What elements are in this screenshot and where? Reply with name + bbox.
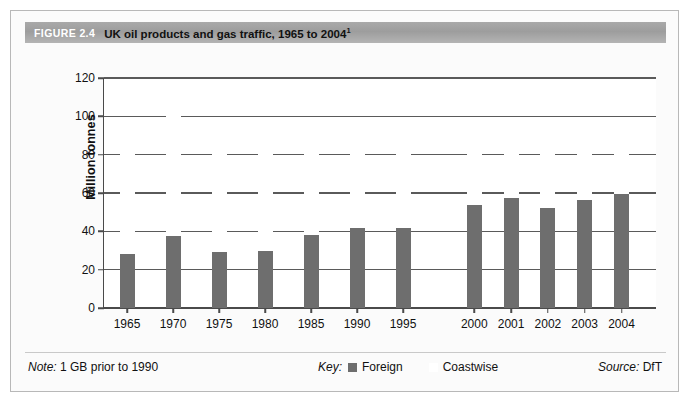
bar-group-1985[interactable]: 1985 [304,78,319,308]
x-tick-mark-1995 [402,308,404,313]
note-body: 1 GB prior to 1990 [60,360,158,374]
bar-segment-foreign-2004[interactable] [614,194,629,308]
bar-segment-foreign-1995[interactable] [396,228,411,308]
bar-segment-coastwise-1980[interactable] [258,136,273,251]
bar-segment-foreign-1990[interactable] [350,228,365,308]
x-tick-label-1995: 1995 [390,317,417,331]
legend-swatch-foreign-icon [348,363,357,372]
bar-segment-foreign-2003[interactable] [577,200,592,308]
bar-segment-coastwise-1965[interactable] [120,139,135,254]
bar-segment-coastwise-1995[interactable] [396,141,411,228]
x-tick-mark-1990 [356,308,358,313]
bar-group-2001[interactable]: 2001 [504,78,519,308]
x-tick-label-1965: 1965 [114,317,141,331]
bar-group-1990[interactable]: 1990 [350,78,365,308]
bar-group-1970[interactable]: 1970 [166,78,181,308]
legend-item-foreign: Foreign [348,360,403,374]
legend-text-foreign: Foreign [362,360,403,374]
bar-segment-foreign-1980[interactable] [258,251,273,309]
x-tick-label-2001: 2001 [498,317,525,331]
x-tick-mark-1965 [126,308,128,313]
chart-legend: Key: Foreign Coastwise [318,360,498,374]
x-tick-label-1975: 1975 [206,317,233,331]
bar-segment-coastwise-2003[interactable] [577,136,592,200]
x-tick-mark-2003 [584,308,586,313]
figure-root: FIGURE 2.4 UK oil products and gas traff… [0,0,691,404]
y-tick-label-20: 20 [82,263,95,277]
bar-segment-foreign-1985[interactable] [304,235,319,308]
x-tick-label-1970: 1970 [160,317,187,331]
x-tick-label-2000: 2000 [461,317,488,331]
bar-segment-foreign-2000[interactable] [467,205,482,309]
x-tick-mark-2000 [474,308,476,313]
y-tick-label-40: 40 [82,224,95,238]
bar-segment-coastwise-2002[interactable] [540,142,555,208]
bar-group-1980[interactable]: 1980 [258,78,273,308]
note-prefix: Note: [28,360,57,374]
bar-segment-coastwise-1985[interactable] [304,136,319,236]
figure-title-footnote-marker: 1 [346,26,350,35]
x-tick-label-2004: 2004 [608,317,635,331]
bar-segment-foreign-1975[interactable] [212,252,227,308]
y-tick-label-120: 120 [75,71,95,85]
bar-group-2003[interactable]: 2003 [577,78,592,308]
x-tick-mark-2001 [510,308,512,313]
source-body: DfT [643,360,662,374]
bar-segment-coastwise-2000[interactable] [467,128,482,205]
plot-area: Million tonnes 020406080100120 196519701… [25,55,666,355]
figure-number-label: FIGURE 2.4 [25,27,95,39]
bar-segment-foreign-2002[interactable] [540,208,555,308]
x-tick-mark-1980 [264,308,266,313]
legend-item-coastwise: Coastwise [429,360,498,374]
bar-group-2004[interactable]: 2004 [614,78,629,308]
x-tick-label-1990: 1990 [344,317,371,331]
figure-footer: Note: 1 GB prior to 1990 Key: Foreign Co… [25,360,666,380]
bar-segment-coastwise-1990[interactable] [350,141,365,228]
x-tick-label-1980: 1980 [252,317,279,331]
bar-segment-foreign-1970[interactable] [166,236,181,308]
bar-segment-coastwise-2001[interactable] [504,136,519,197]
legend-label: Key: [318,360,342,374]
x-tick-mark-2004 [621,308,623,313]
bar-group-1995[interactable]: 1995 [396,78,411,308]
bar-group-1975[interactable]: 1975 [212,78,227,308]
source-text: Source: DfT [598,360,662,374]
figure-header-band: FIGURE 2.4 UK oil products and gas traff… [25,22,666,43]
x-tick-label-2003: 2003 [571,317,598,331]
x-tick-label-1985: 1985 [298,317,325,331]
y-tick-label-0: 0 [88,301,95,315]
bar-segment-foreign-2001[interactable] [504,198,519,308]
bar-segment-foreign-1965[interactable] [120,254,135,308]
bar-group-2000[interactable]: 2000 [467,78,482,308]
chart-canvas: 020406080100120 196519701975198019851990… [103,78,656,308]
x-tick-label-2002: 2002 [535,317,562,331]
x-tick-mark-1985 [310,308,312,313]
note-text: Note: 1 GB prior to 1990 [28,360,158,374]
legend-swatch-coastwise-icon [429,363,438,372]
figure-title: UK oil products and gas traffic, 1965 to… [95,26,350,40]
y-tick-label-60: 60 [82,186,95,200]
legend-text-coastwise: Coastwise [443,360,498,374]
y-tick-label-80: 80 [82,148,95,162]
bars-layer: 1965197019751980198519901995200020012002… [104,78,656,308]
bar-segment-coastwise-1975[interactable] [212,128,227,253]
x-tick-mark-2002 [547,308,549,313]
x-tick-mark-1970 [172,308,174,313]
bar-segment-coastwise-2004[interactable] [614,126,629,194]
footer-divider [25,352,666,353]
bar-segment-coastwise-1970[interactable] [166,103,181,236]
y-tick-label-100: 100 [75,109,95,123]
figure-title-text: UK oil products and gas traffic, 1965 to… [104,27,346,39]
bar-group-1965[interactable]: 1965 [120,78,135,308]
source-prefix: Source: [598,360,639,374]
x-tick-mark-1975 [218,308,220,313]
bar-group-2002[interactable]: 2002 [540,78,555,308]
